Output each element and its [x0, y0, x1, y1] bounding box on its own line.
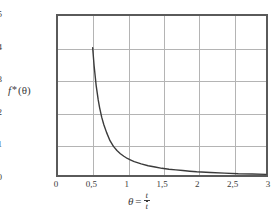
y-axis-tick-label: 5 [0, 10, 2, 19]
y-axis-tick-label: 4 [0, 42, 2, 51]
plot-area [56, 14, 268, 177]
x-axis-tick-label: 1 [124, 180, 129, 189]
y-axis-tick-label: 3 [0, 75, 2, 84]
y-axis-label: f*(θ) [8, 84, 31, 97]
x-axis-label: θ=tt [0, 192, 278, 213]
y-axis-label-star: * [11, 84, 18, 95]
fraction-denominator-text: t [146, 201, 149, 211]
x-axis-label-fraction: tt [144, 191, 151, 212]
fraction-numerator: t [144, 191, 151, 201]
y-axis-tick-label: 1 [0, 140, 2, 149]
x-axis-tick-label: 2 [195, 180, 200, 189]
x-axis-tick-label: 0 [54, 180, 59, 189]
fraction-denominator: t [144, 201, 151, 211]
y-axis-tick-label: 0 [0, 173, 2, 182]
x-axis-tick-label: 0,5 [86, 180, 97, 189]
y-axis-tick-label: 2 [0, 107, 2, 116]
curve-svg [58, 16, 266, 175]
x-axis-tick-label: 2,5 [227, 180, 238, 189]
chart-figure: f*(θ) 012345 00,511,522,53 θ=tt [0, 0, 278, 218]
y-axis-label-arg: (θ) [18, 84, 31, 96]
x-axis-tick-label: 3 [266, 180, 271, 189]
x-axis-tick-label: 1,5 [156, 180, 167, 189]
data-curve [93, 48, 266, 175]
x-axis-label-equals: = [133, 195, 143, 207]
